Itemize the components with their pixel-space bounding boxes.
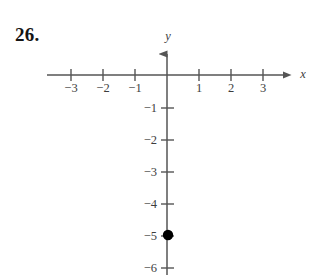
coordinate-plane: −3 −2 −1 1 2 3 −1 −2 −3 −4 −5 −6 y x <box>0 0 324 275</box>
y-axis-label: y <box>163 29 171 43</box>
y-tick-label--2: −2 <box>144 133 157 147</box>
plotted-point <box>163 230 173 240</box>
y-tick-label--6: −6 <box>144 261 157 275</box>
x-tick-label--3: −3 <box>64 81 77 95</box>
x-axis-label: x <box>299 67 306 81</box>
graph-figure: 26. <box>0 0 324 275</box>
y-tick-label--5: −5 <box>144 229 157 243</box>
x-tick-label--2: −2 <box>96 81 109 95</box>
x-tick-label-2: 2 <box>228 81 234 95</box>
x-tick-label-1: 1 <box>196 81 202 95</box>
y-tick-label--1: −1 <box>144 101 157 115</box>
y-tick-label--3: −3 <box>144 165 157 179</box>
y-tick-label--4: −4 <box>144 197 158 211</box>
x-tick-label-3: 3 <box>260 81 266 95</box>
x-tick-label--1: −1 <box>128 81 141 95</box>
